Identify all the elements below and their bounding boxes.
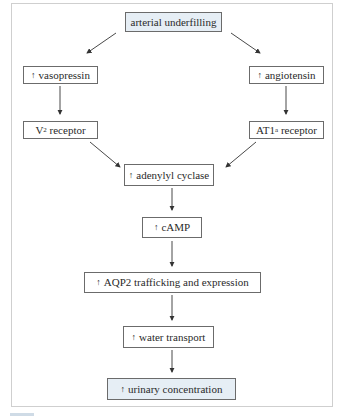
node-label: cAMP <box>161 222 190 233</box>
node-arterial-underfilling: arterial underfilling <box>125 12 222 32</box>
node-label: V <box>35 125 43 136</box>
node-label: AQP2 trafficking and expression <box>104 277 249 288</box>
node-label: arterial underfilling <box>131 17 217 28</box>
node-v2-receptor: V2 receptor <box>23 121 98 139</box>
node-water-transport: ↑ water transport <box>123 326 214 348</box>
node-label-suffix: receptor <box>278 125 317 136</box>
node-vasopressin: ↑ vasopressin <box>23 66 98 84</box>
node-label: urinary concentration <box>128 384 222 395</box>
up-arrow-icon: ↑ <box>31 71 36 80</box>
up-arrow-icon: ↑ <box>96 278 101 287</box>
node-aqp2: ↑ AQP2 trafficking and expression <box>84 272 261 293</box>
figure-tab-marker <box>10 413 34 416</box>
node-label: AT1 <box>256 125 275 136</box>
node-angiotensin: ↑ angiotensin <box>249 66 324 84</box>
node-label-suffix: receptor <box>47 125 86 136</box>
node-label: water transport <box>139 332 205 343</box>
node-adenylyl-cyclase: ↑ adenylyl cyclase <box>124 164 214 186</box>
flow-arrows <box>0 0 342 418</box>
up-arrow-icon: ↑ <box>129 171 134 180</box>
node-camp: ↑ cAMP <box>142 217 202 238</box>
up-arrow-icon: ↑ <box>257 71 262 80</box>
node-label: angiotensin <box>265 70 316 81</box>
node-urinary-concentration: ↑ urinary concentration <box>107 378 236 400</box>
up-arrow-icon: ↑ <box>121 385 126 394</box>
node-label: adenylyl cyclase <box>136 170 209 181</box>
node-label: vasopressin <box>39 70 90 81</box>
up-arrow-icon: ↑ <box>132 333 137 342</box>
up-arrow-icon: ↑ <box>154 223 159 232</box>
node-at1a-receptor: AT1a receptor <box>249 121 324 139</box>
